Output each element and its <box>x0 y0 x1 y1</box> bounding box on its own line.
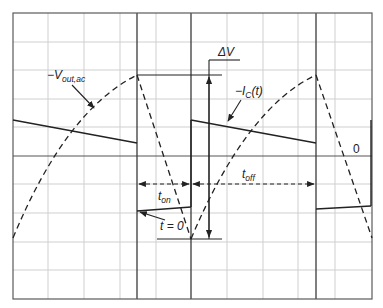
delta-v-dimension <box>137 60 240 239</box>
ic-pointer <box>228 100 241 121</box>
ripple-waveform-diagram: ΔV ton toff t = 0 −Vout,ac −IC(t) 0 <box>0 0 383 308</box>
vout-ac-pointer <box>72 85 94 108</box>
t-zero-label: t = 0 <box>160 219 184 233</box>
capacitor-current-waveform <box>13 120 371 211</box>
zero-label: 0 <box>353 142 360 156</box>
t-off-label: toff <box>242 167 256 183</box>
delta-v-label: ΔV <box>217 45 235 59</box>
ic-label: −IC(t) <box>235 84 263 100</box>
t-on-label: ton <box>158 189 171 205</box>
output-voltage-ripple-waveform <box>13 75 372 239</box>
